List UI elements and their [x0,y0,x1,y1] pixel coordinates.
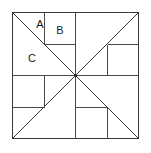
figure-container: ABC [0,0,151,153]
label-C: C [28,52,36,64]
label-B: B [56,24,63,36]
center-point [74,74,77,77]
label-A: A [36,18,44,30]
geometric-figure: ABC [0,0,151,153]
